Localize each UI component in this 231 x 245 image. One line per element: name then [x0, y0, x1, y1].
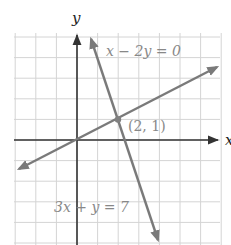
coordinate-graph: y x x − 2y = 0 3x + y = 7 (2, 1): [0, 0, 231, 245]
x-axis-label: x: [225, 131, 231, 149]
line2-label: 3x + y = 7: [54, 199, 129, 215]
intersection-label: (2, 1): [128, 118, 166, 134]
y-axis-label: y: [71, 9, 81, 27]
intersection-point: [115, 116, 121, 122]
line1-label: x − 2y = 0: [106, 43, 181, 59]
